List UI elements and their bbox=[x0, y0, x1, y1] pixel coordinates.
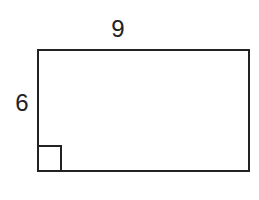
width-label: 9 bbox=[111, 15, 124, 42]
height-label: 6 bbox=[15, 89, 28, 116]
right-angle-marker bbox=[38, 146, 61, 171]
rectangle-diagram: 9 6 bbox=[0, 0, 259, 200]
rectangle bbox=[38, 50, 249, 171]
